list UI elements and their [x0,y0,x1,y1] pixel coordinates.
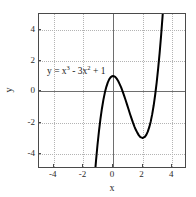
tickmark-x-4 [171,164,172,167]
tickmark-x-2 [142,164,143,167]
tickmark-y--2 [38,122,41,123]
xtick-label--4: -4 [49,169,57,179]
equation-minus: - [72,66,75,76]
xtick-label-0: 0 [110,169,115,179]
equation-term1-exponent: 3 [67,64,70,71]
xtick-label-4: 4 [169,169,174,179]
ytick-label--2: -2 [22,117,35,127]
ytick-label-2: 2 [22,55,35,65]
curve-cubic [39,14,186,168]
equation-lhs: y [47,66,52,76]
tickmark-y--4 [38,153,41,154]
ytick-label-4: 4 [22,24,35,34]
cubic-function-chart: y = x3 - 3x2 + 1 -4 -2 0 2 4 4 2 0 -2 -4… [0,0,196,197]
tickmark-x-0 [112,164,113,167]
ytick-label--4: -4 [22,148,35,158]
tickmark-y-4 [38,29,41,30]
ytick-label-0: 0 [22,85,35,95]
tickmark-x--2 [82,164,83,167]
plot-area: y = x3 - 3x2 + 1 [38,13,186,168]
equation-equals: = [54,66,59,76]
xtick-label--2: -2 [79,169,87,179]
y-axis-title: y [3,88,14,93]
equation-term2-exponent: 2 [87,64,90,71]
tickmark-y-0 [38,90,41,91]
equation-plus: + [93,66,98,76]
tickmark-y-2 [38,60,41,61]
equation-annotation: y = x3 - 3x2 + 1 [47,67,105,77]
tickmark-x--4 [53,164,54,167]
x-axis-title: x [110,182,115,193]
equation-constant: 1 [101,66,106,76]
equation-term2-coefficient: 3x [78,66,88,76]
xtick-label-2: 2 [139,169,144,179]
